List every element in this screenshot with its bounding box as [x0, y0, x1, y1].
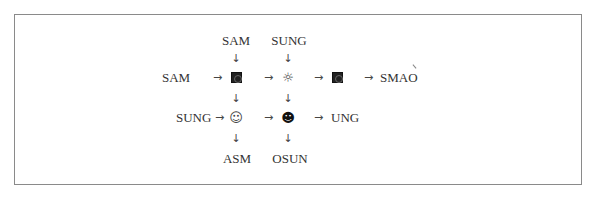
row1-input-label: SAM — [162, 70, 190, 86]
row1-output-label: SMAO — [380, 70, 418, 86]
bottom-label-col2: OSUN — [272, 151, 307, 167]
top-label-col1: SAM — [222, 33, 250, 49]
black-smiley-node-icon: ☻ — [281, 111, 295, 125]
arrow-right-icon: → — [264, 111, 273, 125]
arrow-right-icon: → — [314, 111, 323, 125]
black-square-node-icon — [231, 72, 242, 83]
arrow-right-icon: → — [215, 111, 224, 125]
arrow-right-icon: → — [264, 71, 273, 85]
arrow-right-icon: → — [314, 71, 323, 85]
row2-input-label: SUNG — [176, 110, 211, 126]
arrow-right-icon: → — [213, 71, 222, 85]
arrow-down-icon: ↓ — [283, 92, 292, 106]
black-square-node-icon — [332, 72, 343, 83]
top-label-col2: SUNG — [271, 33, 306, 49]
white-smiley-node-icon: ☺ — [229, 111, 243, 125]
arrow-down-icon: ↓ — [283, 52, 292, 66]
arrow-down-icon: ↓ — [231, 52, 240, 66]
sun-node-icon: ☼ — [282, 71, 294, 85]
arrow-down-icon: ↓ — [283, 132, 292, 146]
row2-output-label: UNG — [331, 110, 359, 126]
arrow-right-icon: → — [364, 71, 373, 85]
arrow-down-icon: ↓ — [231, 132, 240, 146]
arrow-down-icon: ↓ — [231, 92, 240, 106]
bottom-label-col1: ASM — [223, 151, 251, 167]
